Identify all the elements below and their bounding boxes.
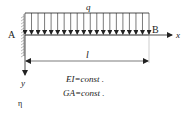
support-hatch-mark (21, 43, 24, 45)
fixed-support (21, 14, 24, 57)
support-hatch-mark (21, 49, 24, 51)
support-hatch-mark (21, 52, 24, 54)
support-hatch-mark (21, 46, 24, 48)
support-a-label: A (8, 29, 16, 40)
end-b-label: B (152, 24, 159, 35)
load-label: q (86, 2, 91, 12)
beam-diagram: q A B x l y EI=const . GA=const . η (0, 0, 187, 113)
x-axis-label: x (175, 30, 180, 40)
distributed-load-arrows (25, 13, 149, 34)
support-hatch-mark (21, 22, 24, 24)
support-hatch-mark (21, 40, 24, 42)
ga-const-label: GA=const . (63, 88, 105, 98)
span-label: l (86, 49, 89, 60)
support-hatch-mark (21, 37, 24, 39)
ei-const-label: EI=const . (65, 74, 104, 84)
support-hatch-mark (21, 25, 24, 27)
support-hatch-mark (21, 31, 24, 33)
support-hatch-mark (21, 34, 24, 36)
support-hatch-mark (21, 55, 24, 57)
eta-symbol: η (18, 99, 22, 108)
support-hatch-mark (21, 19, 24, 21)
y-axis-label: y (20, 78, 25, 88)
support-hatch-mark (21, 16, 24, 18)
support-hatch-mark (21, 28, 24, 30)
